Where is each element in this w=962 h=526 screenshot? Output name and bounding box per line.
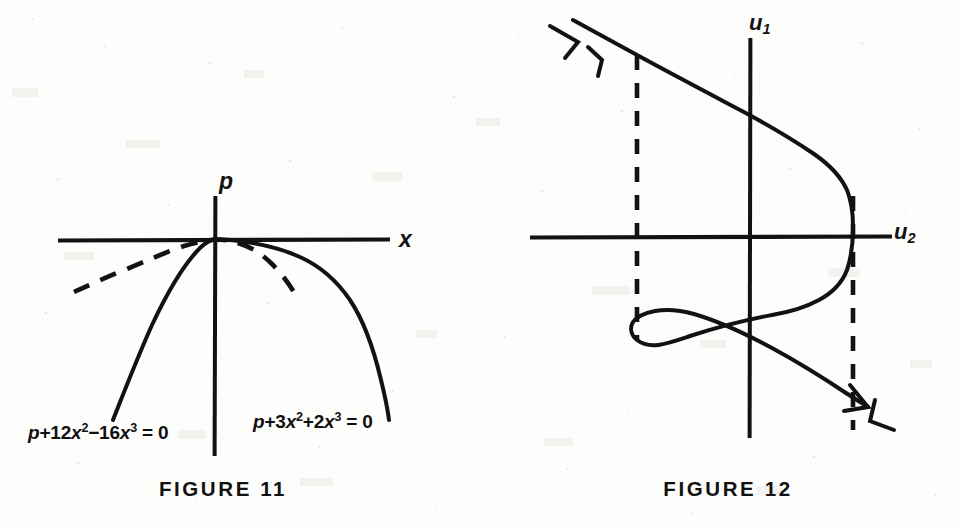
p-axis-line: [215, 196, 216, 456]
equation-left-exp2: 3: [130, 421, 137, 435]
equation-right-p: p: [253, 411, 264, 432]
equation-right-x2: x: [324, 411, 334, 432]
figure-11-drawing: [0, 0, 470, 526]
equation-left-x1: x: [71, 422, 81, 443]
arrowhead-outer-upper-left: [550, 26, 578, 58]
p-axis-label: p: [219, 168, 233, 195]
equation-right-x1: x: [286, 411, 296, 432]
equation-right-term1: +3: [264, 411, 285, 432]
u1-axis-letter: u: [749, 10, 762, 35]
arrowhead-inner-lower-right: [870, 400, 894, 430]
arrowhead-inner-upper-left: [588, 47, 602, 76]
u2-axis-line: [530, 237, 892, 238]
u1-axis-line: [750, 38, 751, 438]
figure-11: p x p+12x2−16x3 = 0 p+3x2+2x3 = 0 FIGURE…: [0, 0, 470, 526]
solid-cubic-curve: [113, 239, 389, 420]
equation-right-equals: = 0: [341, 411, 372, 432]
equation-left-branch: p+12x2−16x3 = 0: [28, 421, 168, 444]
u2-axis-subscript: 2: [907, 230, 915, 246]
equation-left-term2: −16: [88, 422, 120, 443]
figure-12-caption: FIGURE 12: [482, 477, 962, 501]
x-axis-label: x: [399, 226, 412, 253]
equation-left-equals: = 0: [137, 422, 168, 443]
dashed-cubic-curve: [74, 240, 298, 299]
equation-left-term1: +12: [39, 422, 71, 443]
equation-right-branch: p+3x2+2x3 = 0: [253, 410, 373, 433]
equation-right-exp1: 2: [296, 410, 303, 424]
figure-12-drawing: [470, 0, 962, 526]
figure-11-caption: FIGURE 11: [0, 477, 458, 501]
equation-left-p: p: [28, 422, 39, 443]
hysteresis-curve: [573, 20, 868, 407]
u1-axis-subscript: 1: [762, 21, 770, 37]
u1-axis-label: u1: [749, 10, 771, 37]
u2-axis-label: u2: [894, 219, 916, 246]
figure-12: u1 u2 FIGURE 12: [470, 0, 962, 526]
u2-axis-letter: u: [894, 219, 907, 244]
equation-right-term2: +2: [303, 411, 324, 432]
equation-left-x2: x: [120, 422, 130, 443]
